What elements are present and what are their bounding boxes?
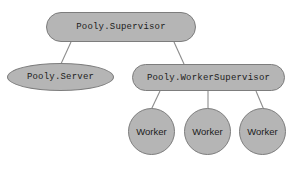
node-label: Pooly.Server <box>27 72 94 82</box>
node-label: Pooly.Supervisor <box>76 22 166 32</box>
node-pooly-worker-supervisor[interactable]: Pooly.WorkerSupervisor <box>132 64 285 91</box>
diagram-canvas: Pooly.Supervisor Pooly.Server Pooly.Work… <box>0 0 295 171</box>
node-worker-3[interactable]: Worker <box>239 108 286 155</box>
node-label: Pooly.WorkerSupervisor <box>147 73 270 83</box>
node-label: Worker <box>192 126 222 137</box>
edge-supervisor-to-worker-sup <box>174 42 184 64</box>
node-worker-1[interactable]: Worker <box>128 108 175 155</box>
node-pooly-server[interactable]: Pooly.Server <box>7 63 114 91</box>
node-pooly-supervisor[interactable]: Pooly.Supervisor <box>46 12 196 42</box>
node-label: Worker <box>247 126 277 137</box>
node-worker-2[interactable]: Worker <box>184 108 231 155</box>
node-label: Worker <box>136 126 166 137</box>
